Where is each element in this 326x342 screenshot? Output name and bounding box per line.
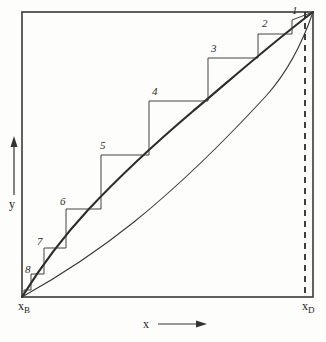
operating-line [22, 12, 313, 297]
stage-label-4: 4 [152, 86, 158, 97]
xb-label: xB [18, 300, 30, 315]
x-axis-arrow-icon [158, 321, 207, 328]
stage-label-6: 6 [60, 196, 66, 207]
xd-label: xD [302, 300, 315, 315]
xb-subscript: B [24, 305, 30, 315]
stage-label-3: 3 [211, 43, 217, 54]
stage-step-5 [101, 155, 149, 209]
stage-staircase [24, 12, 313, 296]
y-axis-label: y [9, 198, 15, 210]
stage-step-4 [149, 101, 208, 155]
stage-label-5: 5 [100, 140, 106, 151]
stage-step-2 [258, 34, 292, 58]
stage-step-3 [208, 58, 258, 101]
xd-subscript: D [308, 305, 315, 315]
y-axis-arrow-icon [11, 136, 18, 195]
stage-label-7: 7 [37, 236, 43, 247]
stage-label-8: 8 [25, 264, 31, 275]
equilibrium-curve [22, 12, 313, 297]
plot-frame [22, 12, 313, 297]
stage-label-1: 1 [292, 5, 298, 16]
stage-diagram-svg [0, 0, 326, 342]
x-axis-label: x [143, 318, 149, 330]
stage-label-2: 2 [262, 18, 268, 29]
figure-container: 1 2 3 4 5 6 7 8 xB xD y x [0, 0, 326, 342]
